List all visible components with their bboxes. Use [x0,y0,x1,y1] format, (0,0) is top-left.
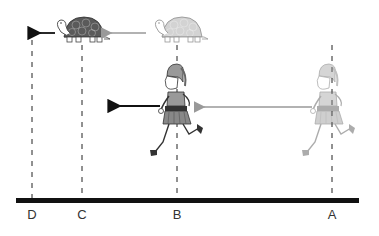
diagram-svg [0,0,379,236]
label-c: C [72,207,92,222]
ground-line [16,198,359,203]
runner-previous-icon [302,64,355,156]
label-d: D [22,207,42,222]
label-b: B [167,207,187,222]
diagram-canvas: D C B A [0,0,379,236]
tortoise-current-icon [57,17,110,42]
label-a: A [322,207,342,222]
runner-current-icon [150,64,203,156]
tortoise-previous-icon [155,17,208,42]
